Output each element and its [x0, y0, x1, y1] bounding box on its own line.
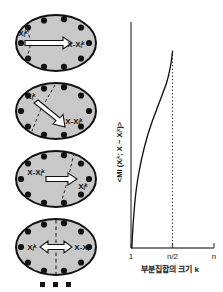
diagram-2: Xᵢᵏ X-Xᵢᵏ [16, 83, 96, 139]
x-axis-label: 부분집합의 크기 k [141, 264, 199, 274]
subset-label-3: Xᵢᵏ [78, 182, 87, 191]
y-axis-label: <MI (Xᵢᵏ; X − Xᵢᵏ)> [115, 121, 124, 182]
complement-label-3: X-Xᵢᵏ [27, 168, 44, 177]
mutual-information-chart: 1 n/2 n 부분집합의 크기 k <MI (Xᵢᵏ; X − Xᵢᵏ)> [110, 0, 223, 292]
figure-root: Xᵢᵏ X-Xᵢᵏ [0, 0, 223, 292]
complement-label-4: X-Xᵢᵏ [74, 243, 91, 252]
diagram-1: Xᵢᵏ X-Xᵢᵏ [16, 15, 96, 71]
complement-label-1: X-Xᵢᵏ [67, 40, 84, 49]
x-tick-label-1: n/2 [167, 252, 179, 261]
complement-label-2: X-Xᵢᵏ [65, 117, 82, 126]
x-tick-label-2: n [212, 252, 216, 261]
x-tick-label-0: 1 [129, 252, 134, 261]
diagram-4: Xᵢᵏ X-Xᵢᵏ [16, 219, 96, 275]
subset-partition-diagrams: Xᵢᵏ X-Xᵢᵏ [0, 0, 112, 292]
ellipsis-marker [40, 282, 71, 287]
subset-label-1: Xᵢᵏ [18, 29, 27, 38]
diagram-3: X-Xᵢᵏ Xᵢᵏ [16, 151, 96, 207]
mi-curve [132, 51, 173, 248]
subset-label-4: Xᵢᵏ [27, 243, 36, 252]
subset-label-2: Xᵢᵏ [26, 92, 35, 101]
